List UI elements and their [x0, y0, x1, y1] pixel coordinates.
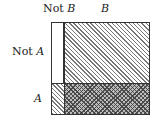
row-label-a: A [34, 93, 42, 105]
b-var: B [101, 2, 109, 15]
not-b-prefix: Not [43, 2, 67, 15]
not-a-var: A [36, 45, 44, 58]
row-label-not-a: Not A [12, 46, 44, 58]
column-label-not-b: Not B [43, 3, 75, 15]
not-b-var: B [67, 2, 75, 15]
cell-a-and-b [64, 83, 149, 114]
probability-grid [51, 22, 150, 115]
a-var: A [34, 92, 42, 105]
not-a-prefix: Not [12, 45, 36, 58]
cell-a-not-b [52, 83, 64, 114]
cell-not-a-not-b [52, 23, 64, 83]
cell-not-a-b [64, 23, 149, 83]
column-label-b: B [101, 3, 109, 15]
